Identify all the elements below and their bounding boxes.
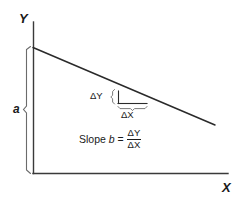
slope-formula-numerator: ΔY: [127, 128, 142, 140]
rise-brace: [111, 90, 115, 105]
slope-formula-fraction: ΔY ΔX: [127, 128, 142, 152]
slope-formula-denominator: ΔX: [127, 140, 142, 151]
intercept-bracket: [24, 47, 31, 174]
slope-triangle: [118, 91, 147, 104]
slope-formula: Slope b = ΔY ΔX: [79, 128, 141, 152]
figure-canvas: [0, 0, 247, 207]
intercept-label: a: [13, 103, 20, 115]
delta-y-label: ΔY: [90, 91, 103, 101]
x-axis-label: X: [222, 181, 231, 194]
y-axis-label: Y: [19, 12, 28, 25]
slope-formula-equals: =: [118, 133, 124, 145]
slope-formula-variable: b: [109, 133, 115, 145]
delta-x-label: ΔX: [121, 110, 134, 120]
slope-formula-prefix: Slope: [79, 133, 109, 145]
regression-line-figure: Y X a ΔY ΔX Slope b = ΔY ΔX: [0, 0, 247, 207]
